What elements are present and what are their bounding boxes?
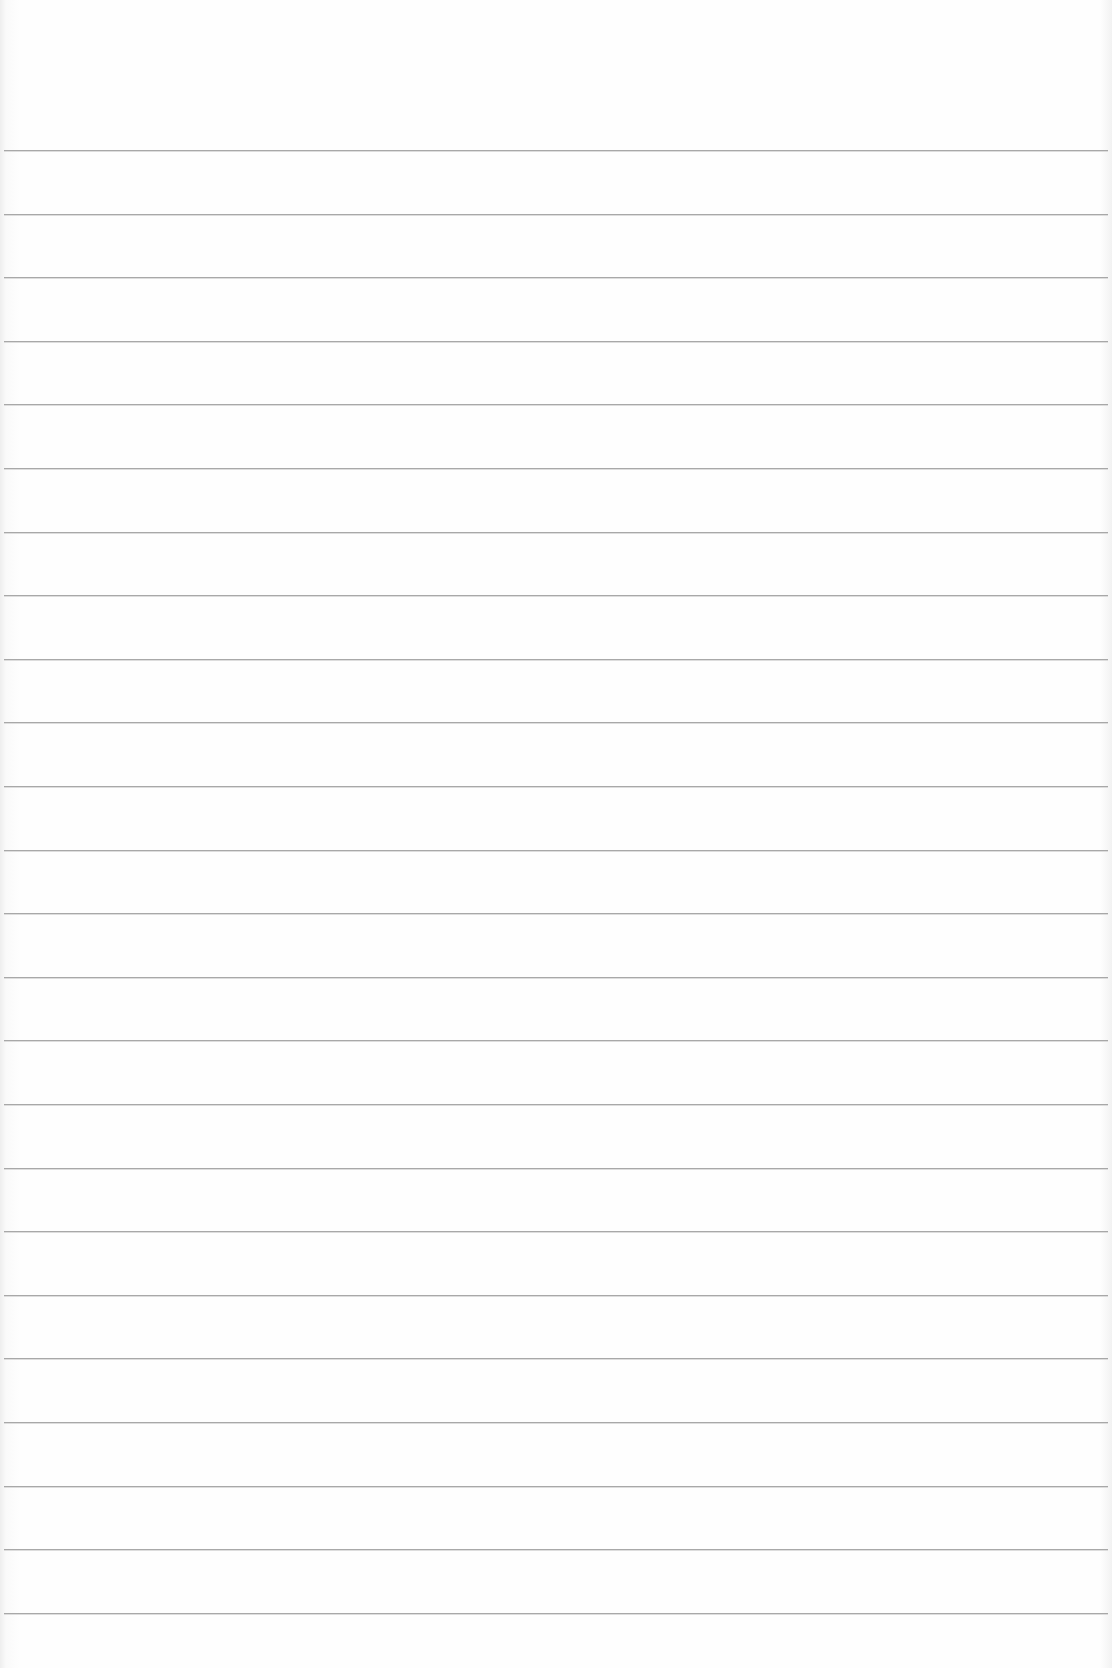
ruled-line bbox=[4, 1168, 1108, 1169]
ruled-line bbox=[4, 532, 1108, 533]
ruled-line bbox=[4, 786, 1108, 787]
ruled-line bbox=[4, 659, 1108, 660]
ruled-line bbox=[4, 1040, 1108, 1041]
ruled-line bbox=[4, 1613, 1108, 1614]
ruled-line bbox=[4, 722, 1108, 723]
ruled-line bbox=[4, 850, 1108, 851]
ruled-line bbox=[4, 214, 1108, 215]
ruled-line bbox=[4, 1422, 1108, 1423]
ruled-line bbox=[4, 1358, 1108, 1359]
ruled-line bbox=[4, 341, 1108, 342]
ruled-line bbox=[4, 913, 1108, 914]
ruled-line bbox=[4, 1295, 1108, 1296]
ruled-line bbox=[4, 277, 1108, 278]
lined-paper-sheet bbox=[0, 0, 1112, 1668]
ruled-line bbox=[4, 1486, 1108, 1487]
ruled-line bbox=[4, 150, 1108, 151]
ruled-line bbox=[4, 1231, 1108, 1232]
ruled-line bbox=[4, 1104, 1108, 1105]
ruled-line bbox=[4, 468, 1108, 469]
ruled-line bbox=[4, 404, 1108, 405]
ruled-line bbox=[4, 977, 1108, 978]
ruled-line bbox=[4, 1549, 1108, 1550]
ruled-line bbox=[4, 595, 1108, 596]
